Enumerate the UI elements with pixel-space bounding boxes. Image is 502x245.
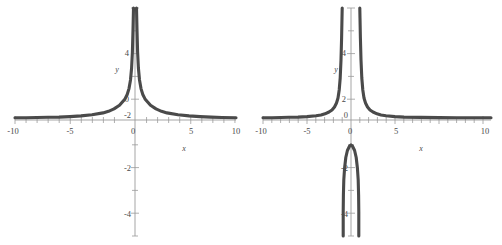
right-plot-svg: -10 -5 0 5 10 4 2 0 -2 -4 y x xyxy=(251,0,502,245)
figure-canvas: -10 -5 0 5 10 4 0 -2 -2 -4 y x xyxy=(0,0,502,245)
left-curve-branch-right xyxy=(137,8,237,118)
right-xtick-label-4: 10 xyxy=(481,126,490,136)
left-ytick-label-2: 0 xyxy=(125,94,129,104)
left-plot-panel: -10 -5 0 5 10 4 0 -2 -2 -4 y x xyxy=(0,0,251,245)
left-curve-branch-left xyxy=(15,8,134,118)
left-ytick-label-m2: -2 xyxy=(124,163,131,173)
right-ytick-label-0: 0 xyxy=(344,110,348,120)
right-xtick-label-1: -5 xyxy=(303,126,310,136)
left-plot-svg: -10 -5 0 5 10 4 0 -2 -2 -4 y x xyxy=(0,0,251,245)
right-xtick-label-2: 0 xyxy=(348,126,352,136)
left-xtick-label-1: -5 xyxy=(66,126,73,136)
right-x-axis-label: x xyxy=(418,144,423,153)
right-ytick-label-2: 2 xyxy=(342,94,346,104)
left-xtick-label-4: 10 xyxy=(232,126,241,136)
right-ytick-label-m4: -4 xyxy=(341,209,349,219)
right-curve-branch-left-outer xyxy=(263,8,342,118)
right-plot-panel: -10 -5 0 5 10 4 2 0 -2 -4 y x xyxy=(251,0,502,245)
left-xtick-label-2: 0 xyxy=(131,126,135,136)
right-curve-branch-right-outer xyxy=(360,8,491,118)
right-xtick-label-0: -10 xyxy=(255,126,266,136)
left-ytick-label-4: 4 xyxy=(125,48,130,58)
left-xtick-label-0: -10 xyxy=(7,126,18,136)
left-ytick-label-0: -2 xyxy=(124,110,131,120)
right-y-axis-label: y xyxy=(333,65,338,74)
left-ytick-label-m4: -4 xyxy=(124,209,132,219)
left-y-axis-label: y xyxy=(114,65,119,74)
right-ytick-label-4: 4 xyxy=(342,48,347,58)
right-ytick-label-m2: -2 xyxy=(341,163,348,173)
left-x-axis-label: x xyxy=(181,144,186,153)
left-xtick-label-3: 5 xyxy=(189,126,193,136)
right-xtick-label-3: 5 xyxy=(394,126,398,136)
